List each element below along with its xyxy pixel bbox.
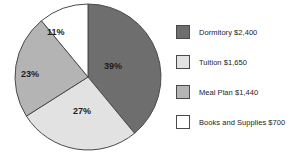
legend-swatch-meal-plan	[176, 85, 190, 99]
legend-swatch-books-and-supplies	[176, 115, 190, 129]
legend-label-dormitory: Dormitory $2,400	[199, 28, 257, 37]
legend-swatch-dormitory	[176, 25, 190, 39]
legend-item-tuition[interactable]: Tuition $1,650	[176, 54, 247, 70]
pie-chart-area: 39% 27% 23% 11%	[0, 0, 176, 154]
legend-label-books-and-supplies: Books and Supplies $700	[199, 118, 285, 127]
legend-item-dormitory[interactable]: Dormitory $2,400	[176, 24, 257, 40]
legend-label-meal-plan: Meal Plan $1,440	[199, 88, 258, 97]
slice-label-dormitory: 39%	[104, 61, 122, 71]
slice-label-tuition: 27%	[73, 106, 91, 116]
slice-label-books-and-supplies: 11%	[47, 27, 65, 37]
legend-label-tuition: Tuition $1,650	[199, 58, 247, 67]
legend-item-books-and-supplies[interactable]: Books and Supplies $700	[176, 114, 285, 130]
legend-item-meal-plan[interactable]: Meal Plan $1,440	[176, 84, 258, 100]
slice-label-meal-plan: 23%	[21, 69, 39, 79]
pie-chart-figure: 39% 27% 23% 11% Dormitory $2,400 Tuition…	[0, 0, 296, 154]
legend-swatch-tuition	[176, 55, 190, 69]
chart-legend: Dormitory $2,400 Tuition $1,650 Meal Pla…	[176, 24, 296, 132]
